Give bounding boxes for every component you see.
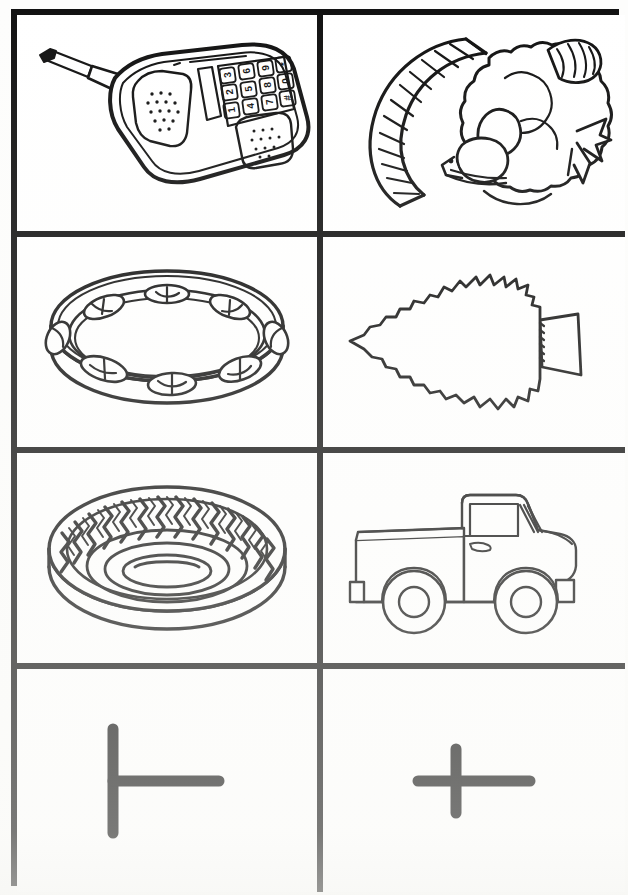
tire-line-art <box>42 471 292 646</box>
cell-tree[interactable]: tree <box>320 234 625 450</box>
turkey-line-art <box>334 23 614 223</box>
cell-letter-t-uppercase[interactable]: T <box>17 666 320 892</box>
tambourine-line-art <box>32 252 302 432</box>
letter-t-lowercase-rotated-glyph <box>384 721 564 841</box>
truck-line-art <box>342 476 607 641</box>
cell-tire[interactable]: tire <box>17 450 320 666</box>
letter-t-uppercase-rotated-glyph <box>67 711 267 851</box>
cell-letter-t-lowercase[interactable]: t <box>320 666 625 892</box>
cell-turkey[interactable]: turkey <box>320 15 625 234</box>
telephone-line-art: 1 4 7 # 2 5 8 0 3 6 9 * <box>22 21 312 226</box>
worksheet-page: telephone <box>0 0 628 895</box>
tree-line-art <box>334 257 614 427</box>
cell-tambourine[interactable]: tambourine <box>17 234 320 450</box>
picture-card-grid: telephone <box>11 9 619 886</box>
cell-telephone[interactable]: telephone <box>17 15 320 234</box>
cell-truck[interactable]: truck <box>320 450 625 666</box>
